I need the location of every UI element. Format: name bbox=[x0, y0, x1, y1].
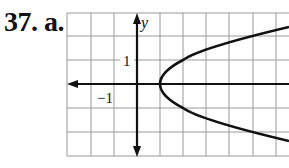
svg-text:y: y bbox=[139, 14, 149, 32]
svg-text:−1: −1 bbox=[97, 90, 113, 106]
svg-text:1: 1 bbox=[123, 53, 131, 69]
graph: 1 −1 y bbox=[0, 0, 289, 168]
